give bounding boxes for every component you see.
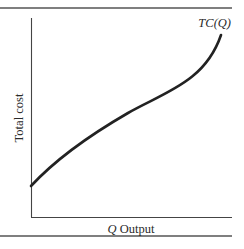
tc-curve — [31, 35, 221, 186]
x-axis-label-text: Output — [117, 222, 155, 236]
x-axis-label-var: Q — [108, 222, 117, 236]
total-cost-figure: TC(Q) Total cost Q Output — [0, 0, 244, 249]
series-label: TC(Q) — [198, 16, 231, 30]
y-axis-label: Total cost — [12, 93, 26, 142]
x-axis-label: Q Output — [108, 222, 155, 236]
